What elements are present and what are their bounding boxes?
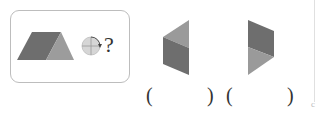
- trapezoid-shape: [16, 31, 76, 62]
- rotate-clockwise-icon: [80, 34, 104, 58]
- option-1-answer-blank[interactable]: [156, 86, 206, 106]
- option-2-answer-blank[interactable]: [236, 86, 286, 106]
- option-1-open-paren: (: [146, 84, 153, 107]
- corner-mark: c: [311, 99, 315, 109]
- question-mark: ?: [104, 32, 114, 58]
- option-2-open-paren: (: [226, 84, 233, 107]
- option-1-shape: [162, 19, 192, 77]
- option-2-shape: [247, 19, 277, 77]
- margin-divider: [314, 0, 315, 102]
- option-1-close-paren: ): [207, 84, 214, 107]
- option-2-close-paren: ): [287, 84, 294, 107]
